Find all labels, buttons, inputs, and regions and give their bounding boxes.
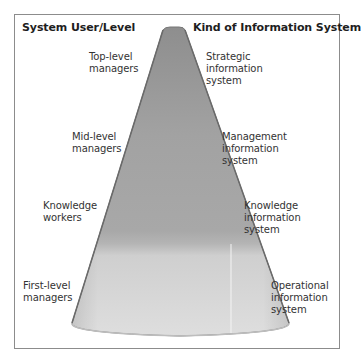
user-label-first-level: First-level managers — [23, 280, 72, 304]
system-label-strategic: Strategic information system — [206, 51, 263, 87]
system-label-operational: Operational information system — [271, 280, 329, 316]
system-label-management: Management information system — [222, 131, 287, 167]
user-label-mid-level: Mid-level managers — [72, 131, 121, 155]
user-label-top-level: Top-level managers — [89, 51, 138, 75]
user-label-knowledge-workers: Knowledge workers — [43, 200, 97, 224]
header-system-user-level: System User/Level — [22, 21, 135, 34]
header-kind-of-information-system: Kind of Information System — [193, 21, 361, 34]
system-label-knowledge: Knowledge information system — [244, 200, 301, 236]
